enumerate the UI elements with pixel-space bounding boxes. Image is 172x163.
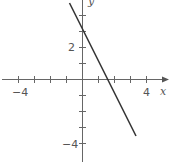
- x-axis-arrow-icon: [162, 77, 169, 83]
- series-line: [70, 3, 137, 136]
- x-tick-label-neg4: −4: [12, 86, 28, 99]
- coordinate-plane: −4 4 2 −4 x y: [0, 0, 172, 163]
- x-axis-label: x: [160, 85, 167, 98]
- y-tick-label-neg4: −4: [62, 138, 78, 151]
- y-axis-label: y: [87, 0, 95, 8]
- y-tick-label-2: 2: [68, 41, 75, 54]
- x-tick-label-4: 4: [143, 86, 150, 99]
